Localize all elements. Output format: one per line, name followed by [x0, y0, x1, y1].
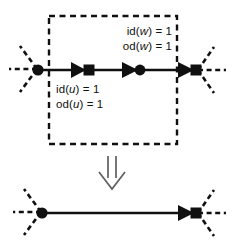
node-right-endpoint-bottom: [191, 208, 202, 219]
label-od-u: od(u) = 1: [56, 98, 103, 110]
node-w: [135, 65, 146, 76]
transform-down-arrow-icon: [99, 156, 125, 189]
label-od-w: od(w) = 1: [123, 40, 172, 52]
right-endpoint-rays-top: [198, 47, 226, 93]
contraction-diagram: id(w) = 1 od(w) = 1 id(u) = 1 od(u) = 1: [0, 0, 241, 245]
right-endpoint-rays-bottom: [198, 190, 226, 236]
node-left-endpoint-top: [32, 64, 43, 75]
diagram-canvas: id(w) = 1 od(w) = 1 id(u) = 1 od(u) = 1: [0, 0, 241, 245]
node-right-endpoint-top: [191, 65, 202, 76]
node-u: [84, 65, 95, 76]
node-left-endpoint-bottom: [36, 207, 47, 218]
label-id-u: id(u) = 1: [56, 83, 99, 95]
label-id-w: id(w) = 1: [127, 25, 172, 37]
